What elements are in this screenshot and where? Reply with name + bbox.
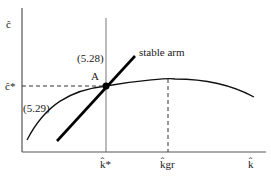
c-star-label: ĉ* — [5, 80, 15, 92]
steady-state-point — [103, 83, 110, 90]
stable-arm-label: stable arm — [139, 46, 185, 58]
phase-diagram: ĉ ĉ* (5.28) stable arm A (5.29) k̂* k̂gr… — [0, 0, 271, 177]
equation-529-label: (5.29) — [23, 102, 50, 115]
x-axis-label: k̂ — [248, 157, 254, 170]
y-axis-label: ĉ — [6, 18, 11, 30]
equation-528-label: (5.28) — [77, 52, 104, 65]
stable-arm — [57, 56, 135, 141]
k-star-label: k̂* — [100, 157, 111, 170]
c-dot-zero-curve — [27, 79, 254, 140]
point-a-label: A — [91, 70, 99, 82]
k-golden-label: k̂gr — [160, 157, 175, 170]
